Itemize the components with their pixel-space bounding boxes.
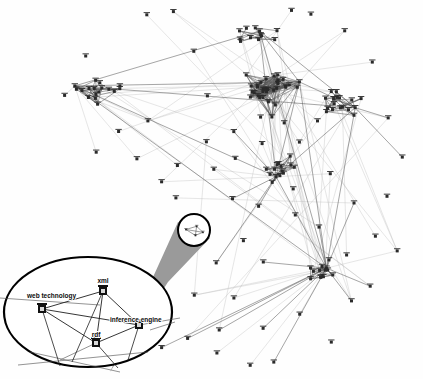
selection-marker[interactable] — [178, 214, 210, 246]
detail-node-rdf[interactable] — [91, 337, 101, 347]
detail-node-label: web technology — [26, 292, 77, 300]
detail-node-label: inference engine — [110, 316, 162, 324]
detail-node-web-technology[interactable] — [37, 303, 47, 313]
graph-canvas[interactable]: web technologyxmlinference enginerdf — [0, 0, 423, 379]
detail-node-label: rdf — [92, 331, 102, 338]
selection-circle[interactable] — [178, 214, 210, 246]
detail-node-label: xml — [97, 277, 108, 284]
graph-figure: web technologyxmlinference enginerdf — [0, 0, 423, 379]
detail-node-xml[interactable] — [98, 285, 108, 295]
detail-lens-ellipse[interactable] — [4, 257, 172, 367]
